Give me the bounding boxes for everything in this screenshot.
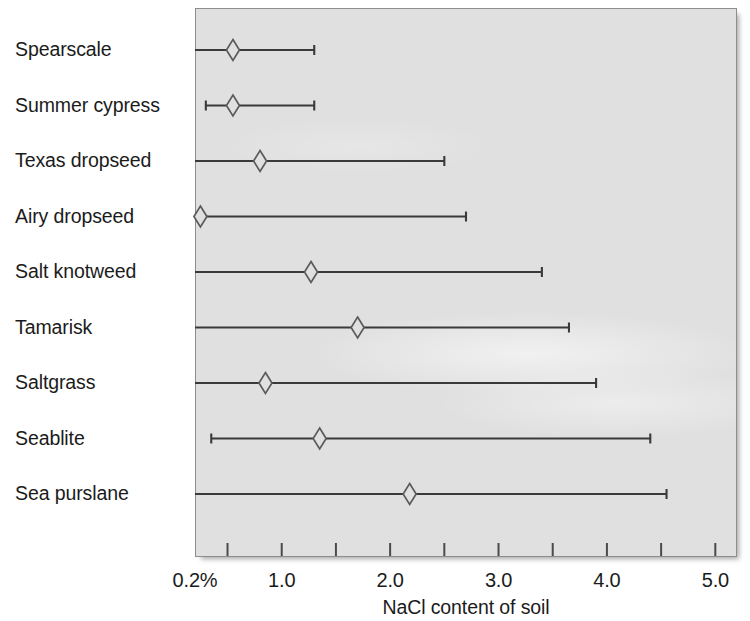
x-tick-label: 0.2%: [173, 570, 218, 590]
diamond-marker: [226, 40, 239, 61]
x-tick-label: 1.0: [268, 570, 295, 590]
diamond-marker: [226, 95, 239, 116]
diamond-marker: [304, 262, 317, 283]
range-plot-figure: SpearscaleSummer cypressTexas dropseedAi…: [0, 0, 750, 621]
x-axis-title: NaCl content of soil: [195, 598, 737, 618]
diamond-marker: [351, 317, 364, 338]
diamond-marker: [403, 484, 416, 505]
x-tick-label: 4.0: [593, 570, 620, 590]
range-row: [206, 95, 314, 116]
range-row: [195, 317, 569, 338]
range-row: [195, 40, 314, 61]
diamond-marker: [254, 151, 267, 172]
diamond-marker: [259, 373, 272, 394]
x-tick-label: 3.0: [485, 570, 512, 590]
x-tick-label: 2.0: [377, 570, 404, 590]
range-row: [195, 484, 667, 505]
range-row: [195, 151, 444, 172]
range-row: [194, 206, 466, 227]
x-tick-label: 5.0: [702, 570, 729, 590]
range-row: [211, 428, 650, 449]
x-axis-tick-labels: 0.2%1.02.03.04.05.0: [0, 570, 750, 596]
diamond-marker: [313, 428, 326, 449]
range-row: [195, 262, 542, 283]
diamond-marker: [194, 206, 207, 227]
range-row: [195, 373, 596, 394]
plot-data-layer: [0, 0, 750, 621]
